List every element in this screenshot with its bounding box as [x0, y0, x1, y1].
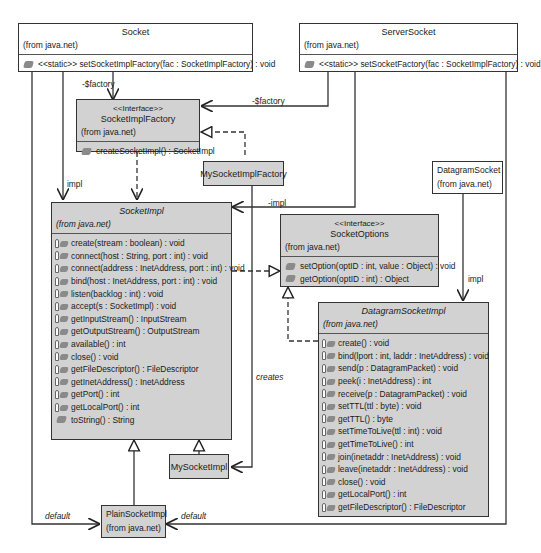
operation-item[interactable]: create() : void: [322, 337, 485, 350]
protected-operation-icon: [55, 327, 68, 336]
class-name: DatagramSocketImpl: [319, 303, 488, 317]
operation-item[interactable]: setTimeToLive(ttl : int) : void: [322, 425, 485, 438]
operation-signature: getLocalPort() : int: [338, 489, 406, 499]
operation-item[interactable]: <<static>> setSocketImplFactory(fac : So…: [22, 58, 249, 71]
operation-signature: close() : void: [338, 477, 385, 487]
operation-item[interactable]: getOutputStream() : OutputStream: [55, 325, 228, 338]
operation-item[interactable]: getFileDescriptor() : FileDescriptor: [322, 501, 485, 514]
operation-signature: receive(p : DatagramPacket) : void: [338, 389, 467, 399]
interface-socket-options[interactable]: <<Interface>> SocketOptions (from java.n…: [280, 214, 439, 287]
class-plain-socket-impl[interactable]: PlainSocketImpl (from java.net): [101, 505, 166, 538]
operations-compartment: setOption(optID : int, value : Object) :…: [281, 256, 438, 288]
operation-item[interactable]: getLocalPort() : int: [55, 401, 228, 414]
operations-compartment: createSocketImpl() : SocketImpl: [77, 141, 199, 161]
operation-signature: peek(i : InetAddress) : int: [338, 376, 431, 386]
operation-item[interactable]: listen(backlog : int) : void: [55, 287, 228, 300]
operations-compartment: create() : void bind(lport : int, laddr …: [319, 333, 488, 516]
operation-item[interactable]: <<static>> setSocketFactory(fac : Socket…: [303, 58, 514, 71]
operation-item[interactable]: getTimeToLive() : int: [322, 438, 485, 451]
class-name: SocketImpl: [52, 203, 231, 217]
protected-operation-icon: [322, 414, 335, 423]
operations-compartment: <<static>> setSocketFactory(fac : Socket…: [300, 54, 517, 74]
operation-signature: getInputStream() : InputStream: [71, 314, 186, 324]
operations-compartment: create(stream : boolean) : void connect(…: [52, 233, 231, 429]
class-package: (from java.net): [19, 38, 252, 54]
operation-signature: getFileDescriptor() : FileDescriptor: [338, 502, 466, 512]
operation-signature: bind(host : InetAddress, port : int) : v…: [71, 276, 217, 286]
protected-operation-icon: [322, 477, 335, 486]
class-datagram-socket[interactable]: DatagramSocket (from java.net): [432, 161, 503, 194]
operation-item[interactable]: toString() : String: [55, 413, 228, 426]
edge-datagramimpl-realization: [288, 287, 318, 341]
stereotype: <<Interface>>: [281, 215, 438, 229]
operation-item[interactable]: connect(address : InetAddress, port : in…: [55, 262, 228, 275]
operation-item[interactable]: setOption(optID : int, value : Object) :…: [284, 260, 435, 273]
operation-signature: join(inetaddr : InetAddress) : void: [338, 452, 461, 462]
interface-socket-impl-factory[interactable]: <<Interface>> SocketImplFactory (from ja…: [76, 99, 200, 152]
class-datagram-socket-impl[interactable]: DatagramSocketImpl (from java.net) creat…: [318, 302, 489, 517]
operation-item[interactable]: getFileDescriptor() : FileDescriptor: [55, 363, 228, 376]
public-operation-icon: [284, 274, 297, 283]
operation-signature: setOption(optID : int, value : Object) :…: [300, 261, 455, 271]
class-name: ServerSocket: [300, 24, 517, 38]
operation-item[interactable]: create(stream : boolean) : void: [55, 237, 228, 250]
operation-item[interactable]: available() : int: [55, 338, 228, 351]
protected-operation-icon: [322, 452, 335, 461]
class-package: (from java.net): [77, 125, 199, 141]
operation-item[interactable]: getLocalPort() : int: [322, 488, 485, 501]
public-operation-icon: [284, 262, 297, 271]
operation-item[interactable]: getInetAddress() : InetAddress: [55, 376, 228, 389]
class-my-socket-impl-factory[interactable]: MySocketImplFactory: [203, 161, 284, 186]
operation-item[interactable]: peek(i : InetAddress) : int: [322, 375, 485, 388]
protected-operation-icon: [55, 403, 68, 412]
operation-item[interactable]: getInputStream() : InputStream: [55, 313, 228, 326]
label-default-right: default: [181, 511, 206, 521]
edge-serversocket-impl: [232, 72, 355, 207]
protected-operation-icon: [322, 490, 335, 499]
operation-signature: createSocketImpl() : SocketImpl: [96, 146, 215, 156]
class-name: SocketImplFactory: [77, 114, 199, 125]
operation-item[interactable]: leave(inetaddr : InetAddress) : void: [322, 463, 485, 476]
operation-signature: bind(lport : int, laddr : InetAddress) :…: [338, 351, 489, 361]
operation-item[interactable]: close() : void: [322, 476, 485, 489]
operation-item[interactable]: bind(lport : int, laddr : InetAddress) :…: [322, 350, 485, 363]
operation-item[interactable]: close() : void: [55, 350, 228, 363]
operation-item[interactable]: accept(s : SocketImpl) : void: [55, 300, 228, 313]
class-my-socket-impl[interactable]: MySocketImpl: [169, 454, 229, 479]
protected-operation-icon: [322, 503, 335, 512]
operation-item[interactable]: send(p : DatagramPacket) : void: [322, 362, 485, 375]
operation-item[interactable]: getTTL() : byte: [322, 413, 485, 426]
operation-item[interactable]: join(inetaddr : InetAddress) : void: [322, 450, 485, 463]
class-name: DatagramSocket: [433, 162, 502, 179]
class-name: SocketOptions: [281, 229, 438, 240]
operation-signature: <<static>> setSocketFactory(fac : Socket…: [319, 59, 541, 69]
protected-operation-icon: [55, 239, 68, 248]
operation-signature: listen(backlog : int) : void: [71, 289, 163, 299]
operation-item[interactable]: getOption(optID : int) : Object: [284, 273, 435, 286]
class-name: MySocketImpl: [170, 455, 228, 478]
class-name: Socket: [19, 24, 252, 38]
operation-signature: create() : void: [338, 338, 389, 348]
operation-item[interactable]: connect(host : String, port : int) : voi…: [55, 250, 228, 263]
operation-signature: getTTL() : byte: [338, 414, 393, 424]
operation-signature: setTimeToLive(ttl : int) : void: [338, 426, 442, 436]
operation-signature: <<static>> setSocketImplFactory(fac : So…: [38, 59, 275, 69]
operation-item[interactable]: createSocketImpl() : SocketImpl: [80, 145, 196, 158]
protected-operation-icon: [322, 402, 335, 411]
class-server-socket[interactable]: ServerSocket (from java.net) <<static>> …: [299, 23, 518, 72]
class-socket-impl[interactable]: SocketImpl (from java.net) create(stream…: [51, 202, 232, 440]
protected-operation-icon: [322, 339, 335, 348]
operation-signature: getLocalPort() : int: [71, 402, 139, 412]
operation-item[interactable]: setTTL(ttl : byte) : void: [322, 400, 485, 413]
operation-signature: accept(s : SocketImpl) : void: [71, 301, 176, 311]
class-package: (from java.net): [52, 217, 231, 233]
operation-signature: getOutputStream() : OutputStream: [71, 326, 199, 336]
operation-signature: create(stream : boolean) : void: [71, 238, 185, 248]
operation-item[interactable]: receive(p : DatagramPacket) : void: [322, 387, 485, 400]
operation-item[interactable]: bind(host : InetAddress, port : int) : v…: [55, 275, 228, 288]
class-socket[interactable]: Socket (from java.net) <<static>> setSoc…: [18, 23, 253, 72]
edge-creates: [231, 176, 252, 467]
operation-item[interactable]: getPort() : int: [55, 388, 228, 401]
protected-operation-icon: [55, 314, 68, 323]
protected-operation-icon: [322, 377, 335, 386]
